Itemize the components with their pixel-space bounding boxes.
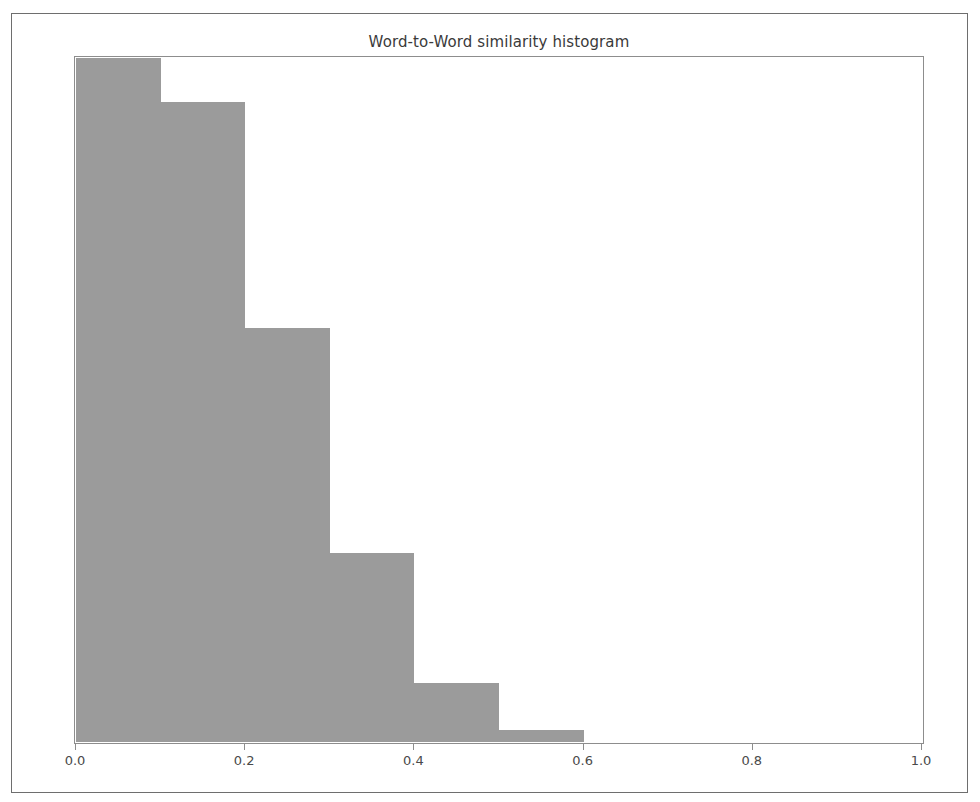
x-axis-tick-label: 1.0: [911, 753, 932, 768]
figure-canvas: Word-to-Word similarity histogram 0.00.2…: [12, 14, 967, 792]
plot-axes-frame: [74, 56, 924, 744]
x-axis-tick: [413, 744, 414, 750]
x-axis-tick: [752, 744, 753, 750]
histogram-bar: [161, 102, 246, 742]
histogram-bar: [414, 683, 499, 743]
histogram-bar: [76, 58, 161, 742]
x-axis-tick-label: 0.4: [403, 753, 424, 768]
x-axis-tick: [244, 744, 245, 750]
x-axis-tick: [583, 744, 584, 750]
x-axis-tick-label: 0.2: [234, 753, 255, 768]
x-axis-tick: [921, 744, 922, 750]
plot-area: [76, 58, 922, 742]
histogram-bar: [499, 730, 584, 742]
x-axis-tick-label: 0.6: [572, 753, 593, 768]
x-axis-tick-label: 0.0: [65, 753, 86, 768]
histogram-bar: [330, 553, 415, 742]
histogram-bar: [245, 328, 330, 743]
x-axis-tick-label: 0.8: [741, 753, 762, 768]
x-axis: 0.00.20.40.60.81.0: [74, 744, 924, 789]
x-axis-tick: [75, 744, 76, 750]
page-frame: Word-to-Word similarity histogram 0.00.2…: [11, 13, 968, 793]
chart-title: Word-to-Word similarity histogram: [74, 33, 924, 51]
